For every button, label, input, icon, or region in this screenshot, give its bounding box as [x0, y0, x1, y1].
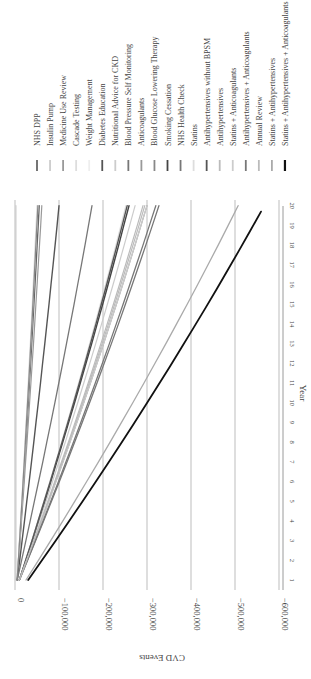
legend: NHS DPPInsulin PumpMedicine Use ReviewCa…: [33, 1, 290, 171]
value-gridlines: [15, 200, 279, 590]
legend-item: NHS DPP: [33, 113, 42, 171]
year-axis-tick-labels: 1234567891011121314151617181920: [289, 202, 296, 581]
legend-item: Antihypertensives without BPSM: [203, 38, 212, 171]
legend-label: Insulin Pump: [46, 103, 55, 146]
year-tick-label: 8: [289, 440, 296, 443]
year-tick-label: 13: [289, 340, 296, 347]
cvd-events-chart: 0−100,000−200,000−300,000−400,000−500,00…: [0, 0, 311, 679]
year-tick-label: 6: [289, 480, 296, 484]
value-tick-label: −300,000: [148, 598, 158, 630]
series-line: [26, 206, 238, 580]
value-tick-label: −600,000: [280, 598, 290, 630]
value-axis-tick-labels: 0−100,000−200,000−300,000−400,000−500,00…: [16, 598, 290, 630]
legend-item: Insulin Pump: [46, 103, 55, 171]
legend-label: Statins + Antihypertensives: [268, 58, 277, 146]
legend-item: Smoking Cessation: [164, 84, 173, 171]
legend-item: Antihypertensives + Anticoagulants: [242, 31, 251, 171]
year-tick-label: 5: [289, 500, 296, 503]
legend-item: Anticoagulants: [137, 98, 146, 171]
value-tick-label: −400,000: [192, 598, 202, 630]
legend-label: Smoking Cessation: [164, 84, 173, 146]
year-tick-label: 15: [289, 301, 296, 308]
legend-label: Cascade Testing: [72, 94, 81, 146]
legend-label: NHS DPP: [33, 113, 42, 146]
legend-item: Nutritional Advice for CKD: [111, 56, 120, 171]
year-tick-label: 16: [289, 281, 296, 288]
year-tick-label: 18: [289, 242, 296, 249]
legend-item: Statins: [190, 124, 199, 171]
legend-label: Blood Pressure Self Monitoring: [124, 44, 133, 146]
year-axis-label: Year: [298, 385, 308, 402]
legend-item: Diabetes Education: [98, 84, 107, 171]
value-tick-label: −100,000: [60, 598, 70, 630]
year-tick-label: 11: [289, 380, 296, 386]
series-lines: [16, 206, 261, 580]
legend-label: Statins: [190, 124, 199, 146]
year-tick-label: 1: [289, 578, 296, 581]
legend-item: Weight Management: [85, 79, 94, 171]
legend-label: NHS Health Check: [177, 84, 186, 146]
series-line: [28, 212, 261, 580]
legend-label: Diabetes Education: [98, 84, 107, 146]
legend-label: Antihypertensives without BPSM: [203, 38, 212, 146]
value-tick-label: −200,000: [104, 598, 114, 630]
legend-label: Weight Management: [85, 79, 94, 146]
year-tick-label: 20: [289, 202, 296, 209]
year-tick-label: 4: [289, 519, 296, 523]
legend-item: Medicine Use Review: [59, 75, 68, 171]
year-tick-label: 9: [289, 421, 296, 424]
legend-label: Nutritional Advice for CKD: [111, 56, 120, 146]
legend-item: Statins + Anticoagulants: [229, 68, 238, 171]
legend-label: Statins + Antihypertensives + Anticoagul…: [281, 1, 290, 146]
legend-item: Statins + Antihypertensives + Anticoagul…: [281, 1, 290, 171]
legend-item: Antihypertensives: [216, 88, 225, 171]
series-line: [17, 206, 38, 580]
year-tick-label: 10: [289, 399, 296, 406]
year-tick-label: 14: [289, 321, 296, 328]
year-tick-label: 3: [289, 539, 296, 542]
value-axis-label: CVD Events: [139, 653, 185, 663]
legend-label: Antihypertensives + Anticoagulants: [242, 31, 251, 146]
year-tick-label: 12: [289, 360, 296, 367]
legend-item: Blood Glucose Lowering Therapy: [150, 37, 159, 171]
legend-item: Statins + Antihypertensives: [268, 58, 277, 171]
legend-label: Antihypertensives: [216, 88, 225, 146]
value-tick-label: −500,000: [236, 598, 246, 630]
year-tick-label: 19: [289, 222, 296, 229]
value-tick-label: 0: [16, 598, 26, 602]
year-tick-label: 7: [289, 460, 296, 464]
legend-item: NHS Health Check: [177, 84, 186, 171]
legend-label: Annual Review: [255, 96, 264, 146]
year-tick-label: 2: [289, 559, 296, 562]
legend-label: Anticoagulants: [137, 98, 146, 146]
legend-label: Medicine Use Review: [59, 75, 68, 146]
legend-label: Blood Glucose Lowering Therapy: [150, 37, 159, 146]
legend-item: Cascade Testing: [72, 94, 81, 171]
legend-item: Annual Review: [255, 96, 264, 171]
year-tick-label: 17: [289, 262, 296, 269]
legend-label: Statins + Anticoagulants: [229, 68, 238, 146]
legend-item: Blood Pressure Self Monitoring: [124, 44, 133, 171]
